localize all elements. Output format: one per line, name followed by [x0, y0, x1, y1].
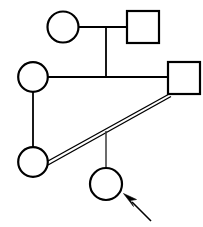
- consanguineous-line-lower: [48, 97, 171, 166]
- individual-i-1-female-circle[interactable]: [48, 12, 79, 43]
- connection-group-gen1: [79, 27, 128, 77]
- individual-iii-2-proband-female-circle[interactable]: [90, 168, 122, 200]
- individual-i-2-male-square[interactable]: [127, 11, 159, 43]
- individual-iii-1-female-circle[interactable]: [18, 147, 48, 177]
- pedigree-canvas: [0, 0, 203, 227]
- connection-group-gen2: [33, 77, 169, 148]
- proband-arrow-shaft: [132, 202, 151, 221]
- proband-arrow: [124, 194, 152, 222]
- consanguineous-line-upper: [48, 93, 171, 161]
- pedigree-diagram: Pedigree chart: [0, 0, 203, 227]
- consanguineous-mating-line: [48, 93, 171, 165]
- individual-ii-1-female-circle[interactable]: [18, 62, 48, 92]
- individual-ii-2-male-square[interactable]: [168, 62, 200, 94]
